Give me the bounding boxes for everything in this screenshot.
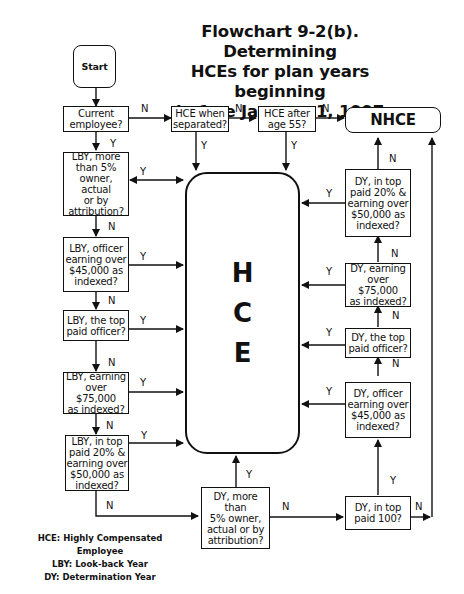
edge-label-n: N: [106, 420, 113, 431]
edge-label-y: Y: [140, 377, 146, 388]
legend-hce: HCE: Highly Compensated Employee: [20, 532, 180, 558]
edge-label-n: N: [282, 501, 289, 512]
dy-top20-node: DY, in top paid 20% & earning over $50,0…: [345, 169, 411, 237]
edge-label-y: Y: [326, 386, 332, 397]
hce-letter-c: C: [233, 293, 252, 333]
start-node: Start: [73, 45, 116, 88]
edge-label-y: Y: [326, 266, 332, 277]
edge-label-n: N: [392, 310, 399, 321]
edge-label-y: Y: [291, 140, 297, 151]
nhce-node: NHCE: [345, 107, 441, 133]
lby-5pct-owner-node: LBY, more than 5% owner, actual or by at…: [63, 152, 129, 216]
edge-label-y: Y: [140, 251, 146, 262]
edge-label-n: N: [235, 103, 242, 114]
edge-label-n: N: [415, 501, 422, 512]
dy-top100-node: DY, in top paid 100?: [345, 496, 411, 530]
edge-label-n: N: [392, 358, 399, 369]
dy-officer-45000-node: DY, officer earning over $45,000 as inde…: [345, 382, 411, 438]
lby-officer-45000-node: LBY, officer earning over $45,000 as ind…: [63, 237, 129, 292]
hce-after-55-node: HCE after age 55?: [258, 106, 316, 132]
edge-label-n: N: [389, 153, 396, 164]
edge-label-n: N: [391, 248, 398, 259]
edge-label-y: Y: [140, 166, 146, 177]
legend-lby: LBY: Look-back Year: [20, 558, 180, 571]
edge-label-y: Y: [246, 469, 252, 480]
lby-top-officer-node: LBY, the top paid officer?: [63, 310, 129, 341]
edge-label-y: Y: [390, 475, 396, 486]
current-employee-node: Current employee?: [63, 106, 129, 132]
lby-75000-node: LBY, earning over $75,000 as indexed?: [63, 372, 129, 414]
dy-top-officer-node: DY, the top paid officer?: [345, 328, 411, 358]
edge-label-n: N: [322, 103, 329, 114]
edge-label-y: Y: [201, 140, 207, 151]
hce-letter-e: E: [234, 333, 252, 373]
legend: HCE: Highly Compensated Employee LBY: Lo…: [20, 532, 180, 584]
hce-letter-h: H: [232, 253, 254, 293]
edge-label-y: Y: [326, 327, 332, 338]
hce-when-separated-node: HCE when separated?: [171, 106, 229, 132]
legend-dy: DY: Determination Year: [20, 571, 180, 584]
edge-label-n: N: [108, 357, 115, 368]
edge-label-n: N: [141, 103, 148, 114]
edge-label-y: Y: [140, 315, 146, 326]
edge-label-n: N: [108, 221, 115, 232]
edge-label-y: Y: [141, 430, 147, 441]
lby-top20-node: LBY, in top paid 20% & earning over $50,…: [65, 435, 129, 491]
edge-label-n: N: [106, 500, 113, 511]
dy-5pct-owner-node: DY, more than 5% owner, actual or by att…: [201, 487, 270, 549]
dy-75000-node: DY, earning over $75,000 as indexed?: [345, 263, 411, 307]
edge-label-y: Y: [326, 188, 332, 199]
hce-node: H C E: [185, 172, 300, 454]
edge-label-y: Y: [110, 138, 116, 149]
edge-label-n: N: [108, 295, 115, 306]
